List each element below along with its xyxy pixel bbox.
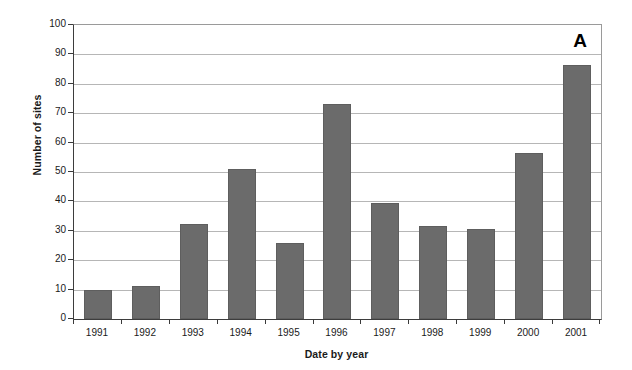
- x-axis-tick-mark: [408, 319, 409, 324]
- bar: [84, 290, 112, 319]
- y-axis-tick-mark: [68, 142, 73, 143]
- x-axis-tick-label: 1998: [408, 327, 456, 339]
- x-axis-tick-mark: [169, 319, 170, 324]
- bar: [419, 226, 447, 319]
- bar: [276, 243, 304, 319]
- y-axis-tick-label: 50: [38, 166, 66, 176]
- y-axis-tick-label: 40: [38, 195, 66, 205]
- x-axis-tick-slot: [73, 319, 121, 325]
- bar-slot: [266, 25, 314, 319]
- x-axis-tick-mark: [217, 319, 218, 324]
- y-axis-tick-mark: [68, 289, 73, 290]
- y-axis-tick-label-group: 0102030405060708090100: [38, 24, 66, 318]
- y-axis-tick-label: 100: [38, 19, 66, 29]
- bar: [180, 224, 208, 319]
- y-axis-tick-label: 60: [38, 137, 66, 147]
- y-axis-tick-mark: [68, 112, 73, 113]
- x-axis-tick-mark: [504, 319, 505, 324]
- y-axis-tick-label: 90: [38, 48, 66, 58]
- y-axis-tick-mark: [68, 83, 73, 84]
- bar-slot: [122, 25, 170, 319]
- x-axis-tick-label: 1993: [169, 327, 217, 339]
- y-axis-tick-mark: [68, 171, 73, 172]
- bar: [132, 286, 160, 319]
- y-axis-tick-label: 0: [38, 313, 66, 323]
- bar: [563, 65, 591, 319]
- x-axis-tick-mark: [360, 319, 361, 324]
- bar-slot: [218, 25, 266, 319]
- y-axis-tick-mark: [68, 259, 73, 260]
- bar-slot: [314, 25, 362, 319]
- x-axis-tick-slot: [265, 319, 313, 325]
- x-axis-tick-slot: [313, 319, 361, 325]
- y-axis-tick-label: 20: [38, 254, 66, 264]
- x-axis-tick-slot: [360, 319, 408, 325]
- y-axis-tick-mark: [68, 318, 73, 319]
- x-axis-tick-mark-group: [73, 319, 600, 325]
- plot-area: A: [73, 24, 602, 320]
- bar-slot: [553, 25, 601, 319]
- bar-slot: [505, 25, 553, 319]
- bar-chart-figure: Number of sites 0102030405060708090100 A…: [0, 0, 632, 370]
- bar: [323, 104, 351, 319]
- x-axis-tick-label: 1999: [456, 327, 504, 339]
- y-axis-tick-mark: [68, 200, 73, 201]
- bar: [371, 203, 399, 319]
- x-axis-tick-slot: [408, 319, 456, 325]
- x-axis-tick-slot: [504, 319, 552, 325]
- x-axis-tick-mark: [456, 319, 457, 324]
- x-axis-tick-label: 1996: [313, 327, 361, 339]
- y-axis-tick-mark: [68, 230, 73, 231]
- bar: [467, 229, 495, 319]
- x-axis-tick-mark: [313, 319, 314, 324]
- x-axis-tick-slot: [121, 319, 169, 325]
- x-axis-tick-mark: [121, 319, 122, 324]
- x-axis-tick-label: 1995: [265, 327, 313, 339]
- x-axis-tick-label: 2000: [504, 327, 552, 339]
- bar-slot: [74, 25, 122, 319]
- x-axis-tick-slot: [169, 319, 217, 325]
- panel-label: A: [573, 31, 587, 50]
- x-axis-tick-mark: [265, 319, 266, 324]
- bar-slot: [361, 25, 409, 319]
- x-axis-tick-label: 1997: [360, 327, 408, 339]
- x-axis-tick-mark-end: [599, 319, 600, 324]
- y-axis-tick-label: 80: [38, 78, 66, 88]
- y-axis-tick-mark: [68, 24, 73, 25]
- x-axis-tick-slot: [217, 319, 265, 325]
- y-axis-tick-label: 10: [38, 284, 66, 294]
- bar: [515, 153, 543, 319]
- x-axis-tick-slot: [456, 319, 504, 325]
- x-axis-tick-label: 1992: [121, 327, 169, 339]
- bar-series: [74, 25, 601, 319]
- x-axis-tick-mark: [73, 319, 74, 324]
- y-axis-tick-mark: [68, 53, 73, 54]
- bar-slot: [457, 25, 505, 319]
- x-axis-title: Date by year: [73, 348, 600, 360]
- bar-slot: [170, 25, 218, 319]
- bar: [228, 169, 256, 319]
- bar-slot: [409, 25, 457, 319]
- x-axis-tick-label: 2001: [552, 327, 600, 339]
- x-axis-tick-label-group: 1991199219931994199519961997199819992000…: [73, 327, 600, 339]
- y-axis-tick-label: 70: [38, 107, 66, 117]
- x-axis-tick-mark: [552, 319, 553, 324]
- x-axis-tick-slot: [552, 319, 600, 325]
- x-axis-tick-label: 1994: [217, 327, 265, 339]
- x-axis-tick-label: 1991: [73, 327, 121, 339]
- y-axis-tick-label: 30: [38, 225, 66, 235]
